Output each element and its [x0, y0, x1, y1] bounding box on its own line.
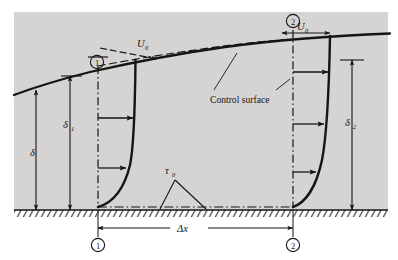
- delta-2-sub: 2: [353, 123, 356, 130]
- wall-surface: [14, 210, 388, 217]
- diagram-canvas: U 0 U 0 1 2 1 2 δ: [0, 0, 398, 260]
- boundary-layer-figure: U 0 U 0 1 2 1 2 δ: [0, 0, 398, 260]
- station-marker-1-bottom: 1: [91, 238, 104, 251]
- station-marker-2-bottom: 2: [286, 238, 299, 251]
- control-surface-label: Control surface: [210, 94, 269, 105]
- station-1-top-label: 1: [95, 59, 99, 68]
- station-1-bottom-label: 1: [96, 242, 100, 251]
- station-2-bottom-label: 2: [291, 242, 295, 251]
- delta-x-label: Δx: [176, 223, 188, 234]
- delta-1-sub: 1: [71, 125, 74, 132]
- station-2-top-label: 2: [291, 18, 295, 27]
